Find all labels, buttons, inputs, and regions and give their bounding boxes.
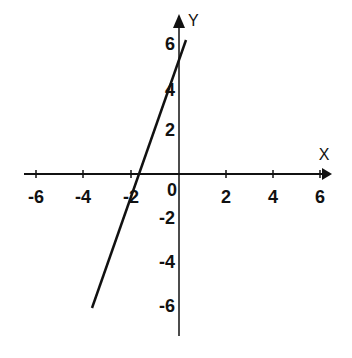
origin-label: 0 <box>167 180 177 200</box>
y-tick-label: 2 <box>165 120 175 140</box>
x-axis-label: X <box>319 146 330 163</box>
x-tick-label: 6 <box>315 187 325 207</box>
x-tick-label: -6 <box>28 187 44 207</box>
coordinate-plane: -6 -4 -2 2 4 6 0 6 4 2 -2 -4 -6 Y X <box>0 0 352 358</box>
y-tick-label: 4 <box>165 80 175 100</box>
y-tick-label: -6 <box>159 296 175 316</box>
y-tick-label: -2 <box>159 208 175 228</box>
y-axis-label: Y <box>188 12 199 29</box>
y-axis-arrow-icon <box>173 14 185 28</box>
y-tick-label: 6 <box>165 34 175 54</box>
x-axis-arrow-icon <box>322 168 332 180</box>
y-tick-label: -4 <box>159 252 175 272</box>
x-tick-label: 4 <box>268 187 278 207</box>
x-tick-label: -4 <box>75 187 91 207</box>
x-tick-label: 2 <box>221 187 231 207</box>
x-tick-label: -2 <box>123 187 139 207</box>
